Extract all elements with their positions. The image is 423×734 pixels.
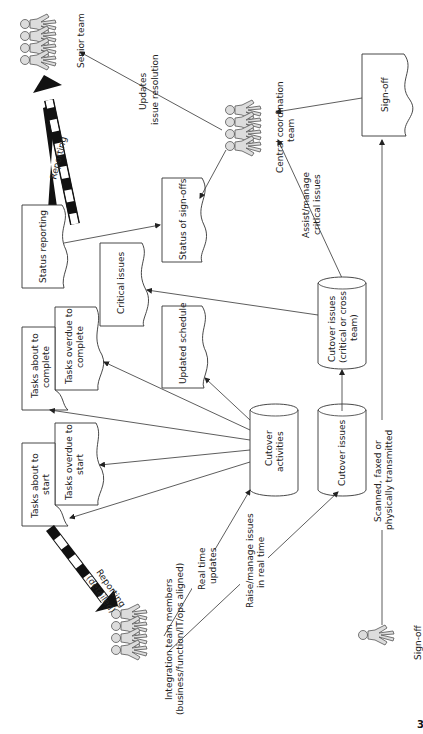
sign-off-document-label: Sign-off (380, 76, 390, 112)
cutover-activities-label-1: Cutover (264, 430, 274, 466)
central-coordination-team-icon (226, 100, 262, 156)
tasks-about-start-1: Tasks about to (30, 453, 40, 519)
senior-team-icon (21, 14, 57, 70)
updates-label-2: issue resolution (150, 54, 160, 125)
edge-to-tasks-overdue-start (100, 450, 250, 465)
tasks-overdue-start-2: start (75, 454, 85, 475)
cutover-issues-critical-1: Cutover issues (327, 295, 337, 362)
cutover-activities-label-2: activities (275, 431, 285, 472)
senior-team-label: Senior team (76, 13, 86, 68)
updates-label: Updates (138, 72, 148, 110)
assist-label-2: critical issues (312, 174, 322, 235)
critical-issues-label: Critical issues (116, 252, 126, 314)
tasks-about-complete-2: complete (41, 345, 51, 388)
assist-label-1: Assist/manage (301, 172, 311, 238)
status-reporting-label: Status reporting (38, 210, 48, 283)
raise-label-1: Raise/manage issues (245, 513, 255, 608)
scanned-label-2: physically transmitted (384, 430, 394, 530)
status-reporting-edge (64, 225, 160, 243)
scanned-label-1: Scanned, faxed or (373, 440, 383, 522)
sign-off-person-icon (359, 625, 395, 645)
central-team-label-2: team (286, 119, 296, 142)
integration-team-label-1: Integration team members (164, 578, 174, 700)
tasks-about-start-2: start (41, 474, 51, 495)
status-of-sign-offs-label: Status of sign-offs (178, 178, 188, 260)
tasks-overdue-complete-2: complete (75, 325, 85, 368)
edge-to-updated-schedule (205, 378, 250, 420)
sign-off-to-central-edge (276, 98, 362, 112)
cutover-issues-critical-3: team) (349, 314, 359, 341)
page-number: 3 (417, 719, 423, 730)
cutover-issues-label: Cutover issues (337, 419, 347, 486)
sign-off-person-label: Sign-off (413, 624, 423, 660)
cutover-diagram: Senior team Reporting Updates issue reso… (0, 0, 423, 734)
cutover-activities-database (250, 404, 298, 496)
central-to-signoffs-edge (200, 150, 226, 198)
tasks-overdue-start-1: Tasks overdue to (64, 424, 74, 501)
integration-team-icon (112, 604, 148, 660)
raise-label-2: in real time (256, 536, 266, 588)
tasks-about-complete-1: Tasks about to (30, 333, 40, 399)
real-time-label-1: Real time (197, 547, 207, 590)
central-team-label-1: Central coordination (275, 81, 285, 173)
cutover-issues-critical-2: (critical or cross (338, 291, 348, 363)
integration-team-label-2: (business/function/IT/ops aligned) (175, 563, 185, 715)
updated-schedule-label: Updated schedule (178, 302, 188, 384)
real-time-label-2: updates (208, 547, 218, 584)
tasks-overdue-complete-1: Tasks overdue to (64, 308, 74, 385)
